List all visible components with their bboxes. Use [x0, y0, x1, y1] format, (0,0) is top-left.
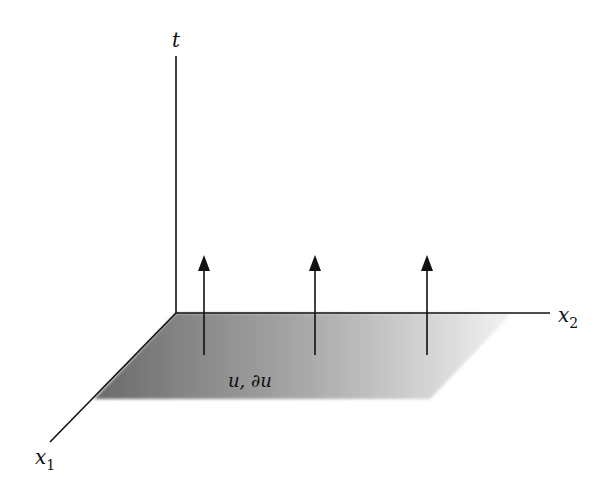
- diagram-canvas: t x2 x1 u, ∂u: [0, 0, 615, 487]
- arrowhead-icon: [421, 255, 433, 271]
- plane-label: u, ∂u: [228, 370, 272, 391]
- t-axis-label: t: [172, 28, 181, 52]
- initial-surface-plane: [94, 313, 512, 399]
- x1-axis-label: x1: [35, 445, 55, 473]
- arrowhead-icon: [309, 255, 321, 271]
- arrowhead-icon: [198, 255, 210, 271]
- x2-axis-label: x2: [558, 303, 578, 331]
